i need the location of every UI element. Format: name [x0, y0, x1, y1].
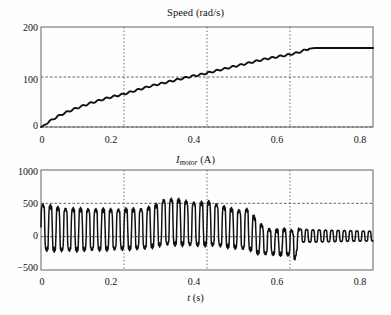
speed-plot-canvas — [0, 0, 391, 152]
speed-panel: Speed (rad/s) 200 100 0 0 0.2 0.4 0.6 0.… — [0, 0, 391, 152]
current-panel: Imotor (A) 1000 500 0 −500 0 0.2 0.4 0.6… — [0, 152, 391, 315]
figure-root: Speed (rad/s) 200 100 0 0 0.2 0.4 0.6 0.… — [0, 0, 391, 315]
current-plot-canvas — [0, 152, 391, 315]
